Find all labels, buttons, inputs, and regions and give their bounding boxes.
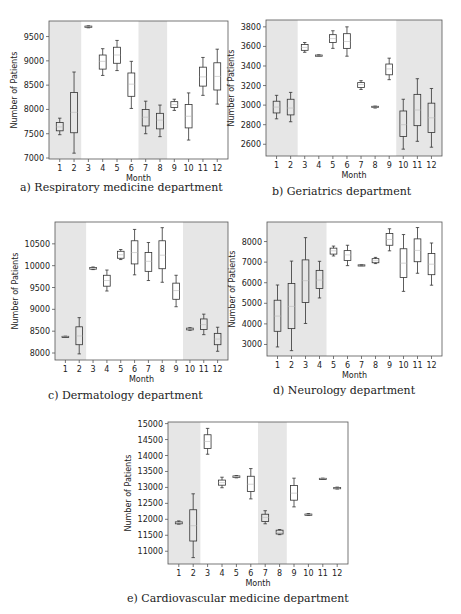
box-month-12 xyxy=(428,243,435,285)
box-month-11 xyxy=(414,228,421,274)
y-tick-label: 3000 xyxy=(242,340,262,349)
box-month-6 xyxy=(131,229,138,274)
shaded-region xyxy=(55,222,86,360)
box-month-10 xyxy=(187,328,194,331)
y-tick-label: 9500 xyxy=(24,33,44,42)
box-month-12 xyxy=(214,49,221,104)
x-tick-label: 11 xyxy=(412,361,422,370)
x-tick-label: 10 xyxy=(398,361,408,370)
box-month-5 xyxy=(330,31,337,49)
x-tick-label: 9 xyxy=(387,361,392,370)
shaded-region xyxy=(396,20,442,156)
x-tick-label: 3 xyxy=(86,164,91,173)
x-tick-label: 12 xyxy=(332,569,342,578)
x-tick-label: 8 xyxy=(160,365,165,374)
y-tick-label: 8000 xyxy=(242,238,262,247)
x-tick-label: 1 xyxy=(63,365,68,374)
x-tick-label: 12 xyxy=(426,161,436,170)
x-tick-label: 3 xyxy=(303,361,308,370)
x-tick-label: 5 xyxy=(330,161,335,170)
x-tick-label: 5 xyxy=(114,164,119,173)
chart-cardiovascular: 1100011500120001250013000135001400014500… xyxy=(168,422,348,564)
x-tick-label: 4 xyxy=(104,365,109,374)
x-tick-label: 7 xyxy=(358,161,363,170)
y-tick-label: 7000 xyxy=(24,154,44,163)
x-tick-label: 10 xyxy=(398,161,408,170)
box-month-11 xyxy=(200,57,207,95)
y-tick-label: 8500 xyxy=(30,327,50,336)
x-tick-label: 10 xyxy=(184,164,194,173)
box-month-3 xyxy=(301,43,308,53)
y-tick-label: 6000 xyxy=(242,279,262,288)
chart-geriatrics: 2600280030003200340036003800123456789101… xyxy=(266,20,442,156)
x-tick-label: 6 xyxy=(132,365,137,374)
box-month-7 xyxy=(358,81,365,90)
y-tick-label: 7000 xyxy=(242,258,262,267)
x-tick-label: 4 xyxy=(100,164,105,173)
box-month-9 xyxy=(291,478,298,507)
x-tick-label: 9 xyxy=(172,164,177,173)
box-month-9 xyxy=(173,275,180,306)
x-axis-label: Month xyxy=(129,375,154,384)
x-tick-label: 5 xyxy=(234,569,239,578)
box-month-4 xyxy=(315,55,322,56)
x-tick-label: 12 xyxy=(212,164,222,173)
box-month-3 xyxy=(85,26,92,28)
y-tick-label: 9500 xyxy=(30,284,50,293)
y-tick-label: 12000 xyxy=(138,515,163,524)
box-month-6 xyxy=(344,27,351,56)
y-axis-label: Number of Patients xyxy=(11,253,20,330)
x-tick-label: 2 xyxy=(77,365,82,374)
x-tick-label: 1 xyxy=(176,569,181,578)
box-month-9 xyxy=(386,229,393,251)
x-tick-label: 2 xyxy=(289,361,294,370)
x-tick-label: 12 xyxy=(426,361,436,370)
box-month-5 xyxy=(117,250,124,260)
box-month-4 xyxy=(219,477,226,488)
x-tick-label: 10 xyxy=(185,365,195,374)
y-tick-label: 3200 xyxy=(241,82,261,91)
shaded-region xyxy=(267,222,327,356)
y-tick-label: 13000 xyxy=(138,483,163,492)
box-month-6 xyxy=(247,469,254,499)
x-tick-label: 3 xyxy=(302,161,307,170)
x-tick-label: 7 xyxy=(263,569,268,578)
x-tick-label: 11 xyxy=(198,164,208,173)
y-tick-label: 12500 xyxy=(138,499,163,508)
x-tick-label: 2 xyxy=(72,164,77,173)
y-tick-label: 9000 xyxy=(24,57,44,66)
y-tick-label: 10000 xyxy=(25,262,50,271)
y-tick-label: 8000 xyxy=(30,349,50,358)
y-tick-label: 5000 xyxy=(242,299,262,308)
y-tick-label: 3600 xyxy=(241,42,261,51)
y-tick-label: 10500 xyxy=(25,240,50,249)
x-tick-label: 2 xyxy=(191,569,196,578)
y-axis-label: Number of Patients xyxy=(228,251,237,328)
y-tick-label: 3400 xyxy=(241,62,261,71)
x-tick-label: 6 xyxy=(129,164,134,173)
x-tick-label: 9 xyxy=(291,569,296,578)
x-tick-label: 7 xyxy=(146,365,151,374)
y-tick-label: 8000 xyxy=(24,105,44,114)
box-month-10 xyxy=(185,93,192,140)
x-tick-label: 5 xyxy=(118,365,123,374)
x-tick-label: 3 xyxy=(91,365,96,374)
x-tick-label: 9 xyxy=(387,161,392,170)
x-tick-label: 7 xyxy=(143,164,148,173)
x-tick-label: 4 xyxy=(219,569,224,578)
y-axis-label: Number of Patients xyxy=(227,50,236,127)
y-tick-label: 15000 xyxy=(138,420,163,429)
y-tick-label: 14500 xyxy=(138,436,163,445)
x-tick-label: 7 xyxy=(359,361,364,370)
box-month-8 xyxy=(372,257,379,263)
x-tick-label: 6 xyxy=(248,569,253,578)
x-tick-label: 1 xyxy=(274,161,279,170)
box-month-3 xyxy=(204,428,211,454)
box-month-8 xyxy=(372,106,379,108)
shaded-region xyxy=(139,21,168,159)
boxplot-svg: 2600280030003200340036003800123456789101… xyxy=(266,20,442,156)
x-tick-label: 5 xyxy=(331,361,336,370)
box-month-3 xyxy=(90,267,97,270)
shaded-region xyxy=(49,21,81,159)
chart-respiratory: 700075008000850090009500123456789101112M… xyxy=(49,21,228,159)
